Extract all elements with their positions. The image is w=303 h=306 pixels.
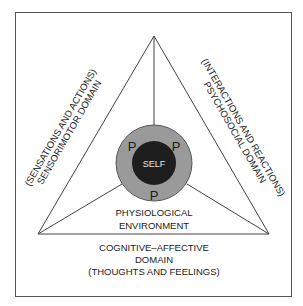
bottom-line3: (THOUGHTS AND FEELINGS): [88, 266, 219, 277]
physiological-line2: ENVIRONMENT: [119, 220, 189, 231]
ring-p-left: P: [128, 139, 137, 154]
ring-p-right: P: [172, 139, 181, 154]
ring-p-bottom: P: [150, 188, 159, 203]
self-label: SELF: [143, 159, 166, 169]
self-domains-diagram: SELF P P P (SENSATIONS AND ACTIONS) SENS…: [0, 0, 303, 306]
physiological-line1: PHYSIOLOGICAL: [115, 207, 192, 218]
bottom-line1: COGNITIVE–AFFECTIVE: [99, 242, 209, 253]
bottom-line2: DOMAIN: [135, 254, 173, 265]
